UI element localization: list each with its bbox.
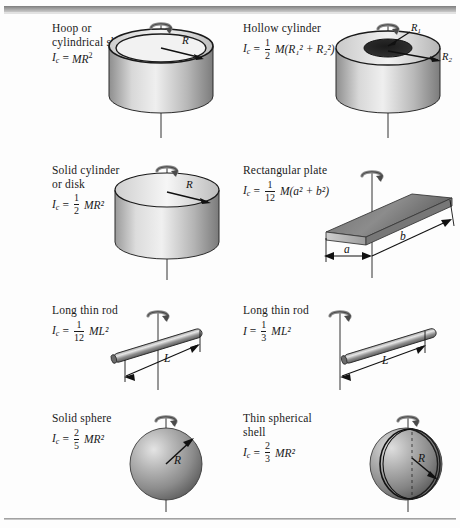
solid-sphere-symbol-sub: c xyxy=(56,437,60,446)
spherical-shell-symbol-sub: c xyxy=(247,451,251,460)
solid-sphere-dim-R: R xyxy=(173,454,181,466)
spherical-shell-fraction: 2 3 xyxy=(265,441,270,464)
spherical-shell-expression: MR² xyxy=(275,447,295,459)
spherical-shell-dim-R: R xyxy=(417,452,425,464)
rod-end-frac-num: 1 xyxy=(261,320,266,331)
solid-sphere-fraction: 2 5 xyxy=(74,428,79,451)
rod-end-label-line1: Long thin rod xyxy=(243,304,309,318)
rod-end-dim-L: L xyxy=(381,354,388,366)
rod-center-frac-num: 1 xyxy=(76,320,81,331)
rod-end-symbol: I xyxy=(243,325,247,337)
hoop-figure: R xyxy=(96,18,226,143)
hoop-equals: = xyxy=(62,52,69,64)
rod-center-equals: = xyxy=(62,325,69,337)
spherical-shell-frac-num: 2 xyxy=(265,441,270,452)
hoop-symbol-sub: c xyxy=(56,56,60,65)
hollow-cylinder-symbol-sub: c xyxy=(247,47,251,56)
rod-end-frac-den: 3 xyxy=(261,331,266,343)
top-rule-shadow xyxy=(4,12,456,14)
hollow-cylinder-frac-den: 2 xyxy=(265,49,270,61)
solid-cylinder-fraction: 1 2 xyxy=(74,193,79,216)
solid-sphere-figure: R xyxy=(108,406,228,518)
spherical-shell-frac-den: 3 xyxy=(265,452,270,464)
spherical-shell-text-block: Thin spherical shell Ic = 2 3 MR² xyxy=(243,412,312,464)
hoop-radius: R xyxy=(82,53,89,65)
solid-sphere-frac-num: 2 xyxy=(74,428,79,439)
rectangular-plate-frac-den: 12 xyxy=(265,191,275,203)
rectangular-plate-frac-num: 1 xyxy=(267,180,272,191)
solid-cylinder-frac-den: 2 xyxy=(74,204,79,216)
rectangular-plate-equals: = xyxy=(253,185,260,197)
spherical-shell-equals: = xyxy=(253,447,260,459)
hollow-cylinder-equals: = xyxy=(253,43,260,55)
solid-sphere-expression: MR² xyxy=(84,433,104,445)
rectangular-plate-symbol-sub: c xyxy=(247,189,251,198)
hollow-cylinder-dim-R2: R2 xyxy=(441,51,452,64)
hollow-cylinder-fraction: 1 2 xyxy=(265,38,270,61)
rod-end-text-block: Long thin rod I = 1 3 ML² xyxy=(243,304,309,343)
solid-cylinder-dim-R: R xyxy=(185,178,193,190)
spherical-shell-equation: Ic = 2 3 MR² xyxy=(243,441,312,464)
rectangular-plate-figure: b a xyxy=(300,160,460,285)
rod-end-expression: ML² xyxy=(271,325,290,337)
solid-sphere-frac-den: 5 xyxy=(74,439,79,451)
rod-center-figure: L xyxy=(104,298,234,398)
figure-sheet: Hoop or cylindrical shell Ic = MR2 xyxy=(0,0,460,528)
solid-sphere-equals: = xyxy=(62,433,69,445)
rectangular-plate-dim-a: a xyxy=(344,243,350,255)
rod-center-dim-L: L xyxy=(163,352,170,364)
hoop-mass: M xyxy=(72,53,82,65)
rod-center-symbol-sub: c xyxy=(56,329,60,338)
hollow-cylinder-frac-num: 1 xyxy=(265,38,270,49)
rod-end-fraction: 1 3 xyxy=(261,320,266,343)
solid-cylinder-frac-num: 1 xyxy=(74,193,79,204)
solid-sphere-equation: Ic = 2 5 MR² xyxy=(52,428,112,451)
spherical-shell-label-line2: shell xyxy=(243,426,312,440)
rectangular-plate-dim-b: b xyxy=(400,230,406,242)
spherical-shell-figure: R xyxy=(348,406,460,518)
solid-sphere-text-block: Solid sphere Ic = 2 5 MR² xyxy=(52,412,112,451)
hollow-cylinder-figure: R1 R2 xyxy=(318,18,458,143)
hoop-power: 2 xyxy=(89,51,93,60)
rectangular-plate-fraction: 1 12 xyxy=(265,180,275,203)
solid-cylinder-symbol-sub: c xyxy=(56,203,60,212)
solid-cylinder-figure: R xyxy=(104,160,234,285)
rod-center-fraction: 1 12 xyxy=(74,320,84,343)
solid-cylinder-equals: = xyxy=(62,199,69,211)
rod-end-figure: L xyxy=(318,298,458,398)
rod-center-frac-den: 12 xyxy=(74,331,84,343)
rod-end-equation: I = 1 3 ML² xyxy=(243,320,309,343)
bottom-rule xyxy=(4,518,456,520)
solid-sphere-label-line1: Solid sphere xyxy=(52,412,112,426)
rod-end-equals: = xyxy=(250,325,257,337)
solid-cylinder-expression: MR² xyxy=(84,199,104,211)
spherical-shell-label-line1: Thin spherical xyxy=(243,412,312,426)
hoop-dim-R: R xyxy=(181,34,189,46)
